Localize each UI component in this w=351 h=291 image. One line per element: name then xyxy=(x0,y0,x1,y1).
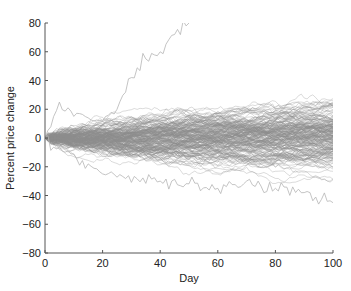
y-tick-label: −40 xyxy=(22,190,41,202)
x-tick-label: 0 xyxy=(42,257,48,269)
x-tick-label: 20 xyxy=(96,257,108,269)
x-tick-label: 40 xyxy=(154,257,166,269)
price-paths xyxy=(45,21,333,205)
y-tick-label: −80 xyxy=(22,247,41,259)
y-tick-label: 80 xyxy=(29,17,41,29)
x-tick-label: 80 xyxy=(269,257,281,269)
x-tick-label: 60 xyxy=(212,257,224,269)
y-tick-label: 40 xyxy=(29,75,41,87)
x-tick-label: 100 xyxy=(324,257,342,269)
y-ticks: −80−60−40−20020406080 xyxy=(22,17,48,259)
chart: −80−60−40−20020406080 020406080100 Day P… xyxy=(0,0,351,291)
y-axis-label: Percent price change xyxy=(4,86,16,190)
y-tick-label: −60 xyxy=(22,218,41,230)
y-tick-label: −20 xyxy=(22,161,41,173)
y-tick-label: 60 xyxy=(29,46,41,58)
y-tick-label: 20 xyxy=(29,103,41,115)
y-tick-label: 0 xyxy=(35,132,41,144)
x-axis-label: Day xyxy=(179,272,199,284)
